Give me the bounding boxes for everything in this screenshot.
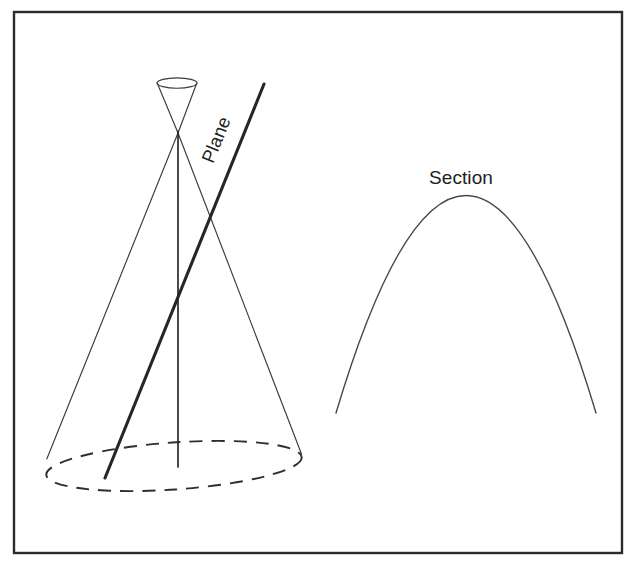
section-parabola-curve (336, 196, 596, 414)
cone-lower-nappe-left-edge (47, 133, 178, 459)
figure-root: Plane Section (0, 0, 637, 575)
cone-lower-nappe-right-edge (178, 133, 302, 454)
section-group: Section (336, 167, 596, 413)
section-label: Section (429, 167, 493, 188)
cone-base-ellipse (45, 434, 304, 499)
cone-group: Plane (45, 78, 304, 499)
cutting-plane-line (105, 84, 264, 478)
figure-border (14, 12, 622, 553)
plane-label: Plane (197, 113, 234, 165)
cone-upper-nappe-right-edge (178, 83, 197, 133)
cone-top-ellipse (157, 78, 197, 88)
cone-upper-nappe-left-edge (157, 83, 178, 133)
conic-section-diagram: Plane Section (0, 0, 637, 575)
